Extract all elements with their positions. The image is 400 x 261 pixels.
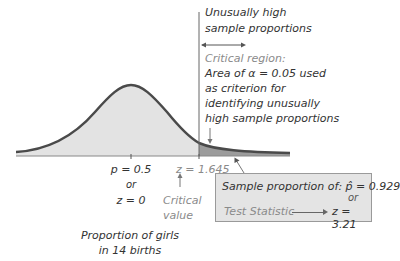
test-statistic-label: Test Statistic <box>224 205 294 218</box>
critical-region-line2: as criterion for <box>205 82 286 95</box>
critical-value-label-1: Critical <box>163 194 201 207</box>
region-label-line2: sample proportions <box>205 22 312 35</box>
sample-proportion-label: Sample proportion of: p̂ = 0.929 <box>222 180 400 193</box>
center-z-label: z = 0 <box>101 194 161 207</box>
region-arrow-right-head <box>241 43 246 48</box>
region-label-line1: Unusually high <box>205 6 287 19</box>
curve-fill-area <box>16 85 199 156</box>
critical-region-pointer-head <box>208 139 213 144</box>
center-or-label: or <box>101 178 161 191</box>
box-pointer <box>236 160 244 173</box>
x-axis-label-1: Proportion of girls <box>60 229 200 242</box>
x-axis-label-2: in 14 births <box>60 244 200 257</box>
critical-region-line1: Area of α = 0.05 used <box>205 67 326 80</box>
right-arrow-icon <box>292 212 326 213</box>
critical-value-label-2: value <box>163 209 193 222</box>
critical-region-title: Critical region: <box>205 52 286 65</box>
test-statistic-value: z = 3.21 <box>332 205 371 231</box>
center-p-label: p = 0.5 <box>101 163 161 176</box>
result-or-label: or <box>348 192 358 203</box>
critical-region-line4: high sample proportions <box>205 112 339 125</box>
result-box: Sample proportion of: p̂ = 0.929 or Test… <box>215 173 372 222</box>
region-arrow-left-head <box>201 43 206 48</box>
critical-region-fill <box>199 143 290 156</box>
critical-region-line3: identifying unusually <box>205 97 320 110</box>
